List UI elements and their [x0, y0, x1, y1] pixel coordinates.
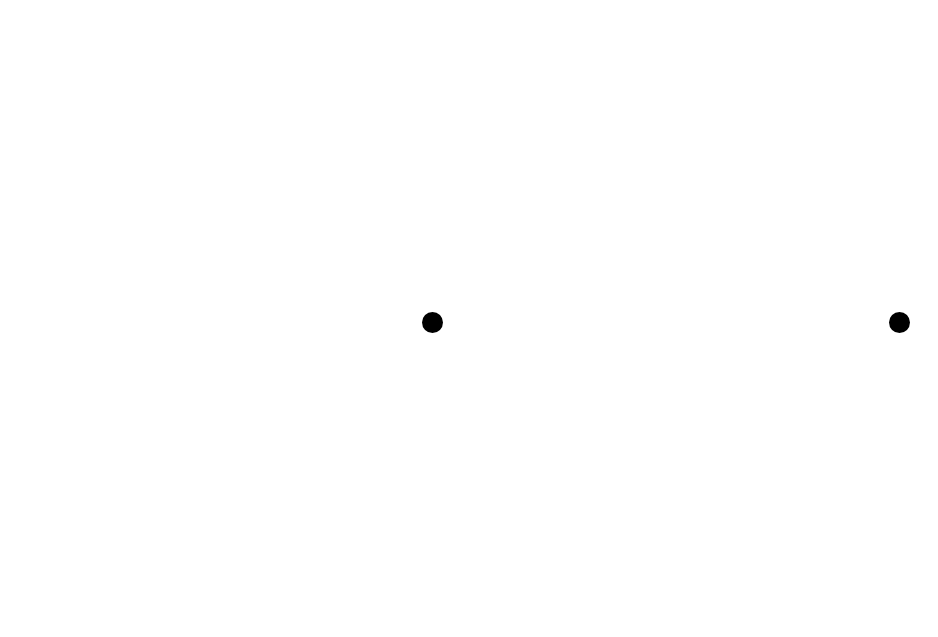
right-dot[interactable]: [889, 312, 910, 333]
left-dot[interactable]: [422, 312, 443, 333]
dot-canvas: [0, 0, 938, 637]
